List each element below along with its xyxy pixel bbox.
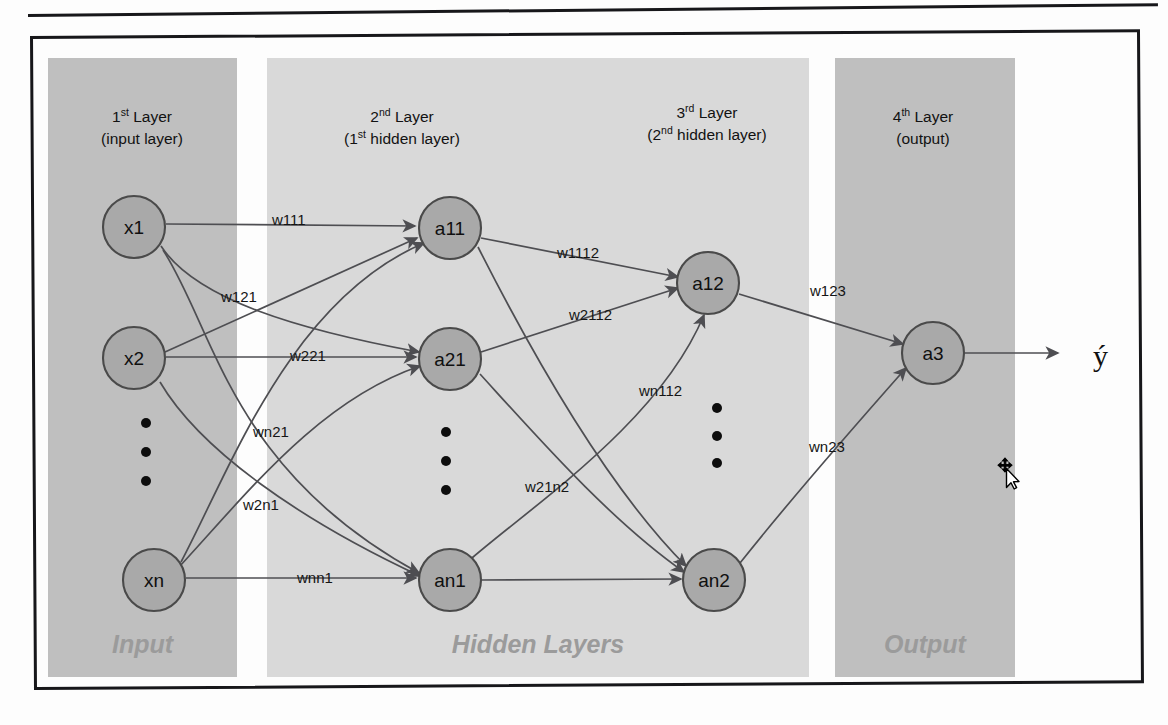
node-x1[interactable]: x1 [103,196,165,258]
node-an2[interactable]: an2 [683,549,745,611]
node-label-x1: x1 [124,217,144,238]
weight-label-w2n1: w2n1 [242,496,279,513]
hidden1-ellipsis-dot-2 [441,456,451,466]
edge-an1-an2 [481,579,681,580]
node-label-a3: a3 [922,343,943,364]
band-caption-input: Input [112,630,175,658]
input-ellipsis-dot-1 [141,418,151,428]
move-cursor-icon [996,456,1022,490]
hidden2-ellipsis-dot-2 [712,431,722,441]
hidden2-ellipsis-dot-3 [712,458,722,468]
node-label-a21: a21 [434,349,466,370]
node-label-x2: x2 [124,348,144,369]
node-a3[interactable]: a3 [902,322,964,384]
hidden1-ellipsis-dot-3 [441,485,451,495]
weight-label-wn21: wn21 [252,423,289,440]
weight-label-w2112: w2112 [568,306,612,323]
figure-stage: x1x2xna11a21an1a12an2a3 w111w121w221wn21… [0,0,1168,725]
layer-title-sub-layer-1: (input layer) [101,130,183,147]
node-xn[interactable]: xn [123,549,185,611]
hidden2-ellipsis-dot-1 [712,403,722,413]
node-a21[interactable]: a21 [419,328,481,390]
layer-title-sub-layer-4: (output) [896,130,949,147]
band-caption-output: Output [884,630,968,658]
weight-label-wn23: wn23 [808,438,845,455]
weight-label-w121: w121 [220,288,257,305]
weight-label-w123: w123 [809,282,846,299]
hidden1-ellipsis-dot-1 [441,427,451,437]
node-an1[interactable]: an1 [419,549,481,611]
weight-label-wn112: wn112 [638,382,682,399]
network-diagram-canvas: x1x2xna11a21an1a12an2a3 w111w121w221wn21… [0,0,1168,725]
layer-bands [48,58,1015,677]
weight-label-w21n2: w21n2 [524,478,569,495]
weight-label-w111: w111 [271,211,306,228]
weight-label-w221: w221 [289,347,326,364]
node-x2[interactable]: x2 [103,327,165,389]
weight-label-w1112: w1112 [556,244,599,261]
input-ellipsis-dot-3 [141,476,151,486]
node-label-an2: an2 [698,570,730,591]
node-label-a11: a11 [435,218,465,239]
output-y-hat-label: ý [1093,339,1108,372]
band-caption-hidden: Hidden Layers [452,630,624,658]
node-label-an1: an1 [434,570,466,591]
weight-label-wnn1: wnn1 [296,569,333,586]
node-label-xn: xn [144,570,164,591]
node-a11[interactable]: a11 [419,197,481,259]
node-a12[interactable]: a12 [677,252,739,314]
input-ellipsis-dot-2 [141,447,151,457]
node-label-a12: a12 [692,273,724,294]
